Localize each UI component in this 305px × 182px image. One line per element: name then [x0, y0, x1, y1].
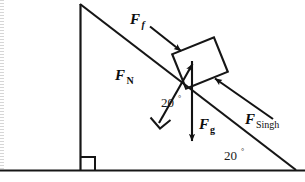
force-label-gravity-subscript: g — [210, 124, 215, 135]
angle-label-base-value: 20 — [224, 148, 237, 163]
inclined-plane-diagram: F f F N F g F Singh 20 ° 20 ° — [0, 0, 305, 182]
diagram-canvas: F f F N F g F Singh 20 ° 20 ° — [0, 0, 305, 182]
force-label-friction: F f — [129, 11, 147, 30]
force-label-gravity-symbol: F — [198, 116, 209, 132]
force-arrow-normal — [159, 64, 193, 123]
force-label-gravity: F g — [198, 116, 215, 135]
force-label-singh-symbol: F — [244, 111, 255, 127]
force-arrow-singh — [215, 79, 273, 120]
force-label-friction-subscript: f — [142, 19, 147, 30]
force-label-friction-symbol: F — [129, 11, 140, 27]
force-label-singh-subscript: Singh — [256, 119, 279, 130]
angle-label-base: 20 ° — [224, 147, 244, 163]
force-arrow-friction — [150, 27, 181, 52]
triangle-base-right-angle-marker — [80, 157, 95, 170]
angle-label-block: 20 ° — [161, 94, 181, 110]
angle-label-block-value: 20 — [161, 95, 174, 110]
force-label-singh: F Singh — [244, 111, 279, 130]
force-label-normal-symbol: F — [114, 67, 125, 83]
force-label-normal: F N — [114, 67, 135, 86]
angle-label-block-degree: ° — [178, 94, 181, 103]
force-label-normal-subscript: N — [127, 75, 135, 86]
angle-label-base-degree: ° — [241, 147, 244, 156]
